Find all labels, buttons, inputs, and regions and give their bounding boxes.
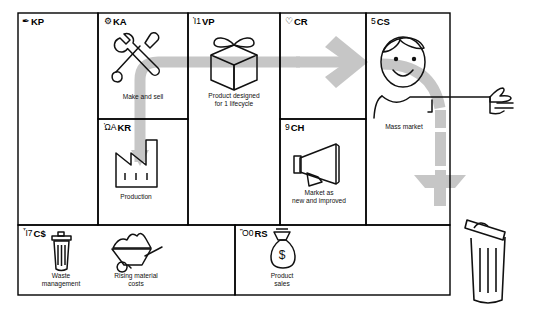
caption-value-propositions: Product designed for 1 lifecycle (189, 92, 279, 108)
gear-icon: ⚙ (104, 17, 112, 26)
megaphone-icon (294, 144, 339, 186)
tag-icon: Ἷ7 (23, 229, 33, 238)
caption-cost-materials: Rising material costs (94, 272, 178, 288)
disposal-trash-can-icon (465, 220, 505, 303)
icon-artwork-layer: $ (0, 0, 549, 316)
truck-icon: ὩA (104, 123, 116, 132)
header-label-ch: CH (291, 122, 305, 133)
caption-revenue-product-sales: Product sales (245, 272, 319, 288)
header-label-cr: CR (294, 16, 308, 27)
header-customer-segments: ὆5 CS (371, 16, 390, 27)
money-icon: Ὃ0 (240, 229, 253, 238)
caption-channels: Market as new and improved (277, 189, 361, 205)
header-label-ka: KA (113, 16, 127, 27)
people-icon: ὆5 (371, 17, 376, 26)
header-label-vp: VP (202, 16, 215, 27)
header-label-rs: RS (254, 228, 267, 239)
header-customer-relationships: ♡ CR (285, 16, 308, 27)
header-key-activities: ⚙ KA (104, 16, 127, 27)
header-channels: ὞9 CH (285, 122, 304, 133)
gift-icon: Ἰ1 (193, 17, 201, 26)
header-key-partners: ✒ KP (22, 16, 44, 27)
caption-customer-segments: Mass market (362, 123, 446, 131)
svg-text:$: $ (279, 248, 286, 262)
wheelbarrow-icon (112, 234, 162, 272)
person-face-icon (374, 37, 513, 118)
trash-can-icon (52, 232, 71, 271)
money-bag-icon: $ (271, 229, 295, 268)
header-revenue-streams: Ὃ0 RS (240, 228, 268, 239)
header-label-kr: KR (117, 122, 131, 133)
header-label-cs: CS (377, 16, 390, 27)
business-model-canvas: $ ✒ KP ⚙ KA ὩA KR Ἰ1 VP ♡ CR ὞9 CH (0, 0, 549, 316)
header-cost-structure: Ἷ7 C$ (23, 228, 46, 239)
pen-icon: ✒ (22, 17, 30, 26)
factory-icon (116, 140, 157, 187)
speech-bubble-icon: ὞9 (285, 123, 290, 132)
caption-key-activities: Make and sell (100, 93, 186, 101)
heart-icon: ♡ (285, 17, 293, 26)
caption-key-resources: Production (93, 193, 179, 201)
header-key-resources: ὩA KR (104, 122, 131, 133)
header-label-cost: C$ (34, 228, 46, 239)
header-value-propositions: Ἰ1 VP (193, 16, 215, 27)
gift-box-icon (211, 38, 257, 90)
wrench-screwdriver-icon (112, 33, 159, 82)
header-label-kp: KP (31, 16, 44, 27)
caption-cost-waste: Waste management (24, 272, 98, 288)
